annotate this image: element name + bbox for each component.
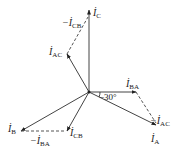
label-i-a: İA xyxy=(150,133,159,146)
label-neg-i-ba: −İBA xyxy=(30,135,50,148)
label-neg-i-cb: −İCB xyxy=(62,17,82,30)
label-i-ba: İBA xyxy=(125,78,139,91)
phasor-vectors xyxy=(21,10,156,131)
origin-point xyxy=(88,91,91,94)
label-i-b: İB xyxy=(7,123,16,136)
label-i-ac: İAC xyxy=(48,46,62,59)
label-neg-i-ac: −İAC xyxy=(150,115,170,128)
label-i-c: İC xyxy=(92,7,101,20)
phasor-diagram: İCİACİBAİAİBİCB−İCB−İAC−İBA −30° xyxy=(0,0,184,150)
vector-i-b xyxy=(21,92,89,131)
angle-label: −30° xyxy=(99,92,117,102)
label-i-cb: İCB xyxy=(69,127,83,140)
vector-i-ac xyxy=(67,54,89,92)
